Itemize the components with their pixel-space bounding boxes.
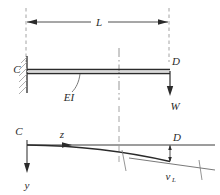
tangent-line-at-D [129,158,215,170]
y-axis-label: y [24,179,30,191]
free-end-label-D: D [171,55,180,67]
figure-canvas: L C EI D [0,0,220,195]
z-axis-label: z [59,128,65,140]
beam-label-EI: EI [63,91,76,103]
tangent-end-tick [199,160,202,180]
ei-leader-line [72,74,80,92]
dimension-arrowhead-right [158,19,168,24]
lower-diagram: C y z D v [15,106,215,191]
dimension-arrowhead-left [27,19,37,24]
load-arrowhead [167,86,173,96]
support-label-C: C [13,63,21,75]
y-axis-arrowhead [24,163,30,173]
dimension-label-L: L [95,16,102,28]
deflected-end-label-D: D [172,131,181,143]
deflection-curve [27,145,170,162]
load-label-W: W [170,100,180,112]
deflection-label-v: v [166,170,171,182]
beam-deflection-figure: L C EI D [0,0,220,195]
deflection-measure-arrow-top [168,145,172,150]
origin-label-C: C [15,125,23,137]
upper-diagram: L C EI D [13,8,180,112]
deflection-label-subscript: L [171,176,176,184]
